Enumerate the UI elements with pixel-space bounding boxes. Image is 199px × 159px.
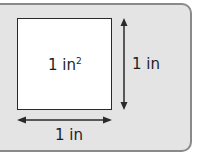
dimension-arrows: [0, 0, 199, 159]
height-arrow: [121, 18, 128, 110]
width-arrow: [17, 117, 112, 124]
